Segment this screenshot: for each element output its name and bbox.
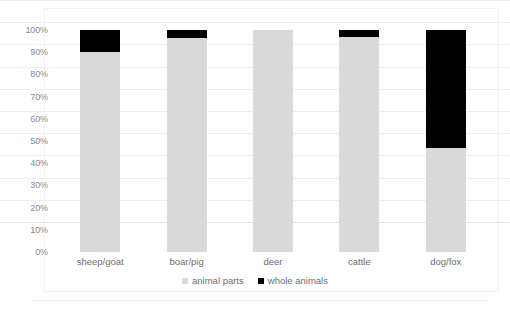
bar-sheep-goat (80, 30, 120, 252)
stacked-bar-chart: 100% 90% 80% 70% 60% 50% 40% 30% 20% 10%… (0, 0, 510, 309)
bar-segment-animal-parts (167, 38, 207, 252)
x-axis: sheep/goat boar/pig deer cattle dog/fox (57, 256, 489, 267)
y-axis-tick-label: 10% (8, 225, 48, 235)
bar-segment-animal-parts (426, 148, 466, 252)
legend-label: animal parts (192, 275, 244, 286)
y-axis-tick-label: 90% (8, 47, 48, 57)
bar-segment-whole-animals (80, 30, 120, 52)
bar-dog-fox (426, 30, 466, 252)
gridline-90 (0, 22, 510, 23)
gridline-100 (0, 0, 510, 1)
gray-square-icon (182, 278, 188, 284)
bar-segment-animal-parts (253, 30, 293, 252)
chart-legend: animal parts whole animals (0, 275, 510, 286)
y-axis-tick-label: 50% (8, 136, 48, 146)
x-axis-tick-label: dog/fox (410, 256, 482, 267)
y-axis-tick-label: 80% (8, 69, 48, 79)
y-axis-tick-label: 100% (8, 25, 48, 35)
x-axis-tick-label: cattle (323, 256, 395, 267)
bar-boar-pig (167, 30, 207, 252)
x-axis-tick-label: deer (237, 256, 309, 267)
x-axis-tick-label: boar/pig (151, 256, 223, 267)
y-axis-tick-label: 30% (8, 180, 48, 190)
y-axis-tick-label: 20% (8, 203, 48, 213)
x-axis-tick-label: sheep/goat (64, 256, 136, 267)
y-axis-tick-label: 40% (8, 158, 48, 168)
bottom-divider (30, 300, 490, 301)
bar-group (57, 30, 489, 252)
bar-segment-whole-animals (426, 30, 466, 148)
bar-segment-whole-animals (167, 30, 207, 38)
bar-segment-animal-parts (80, 52, 120, 252)
plot-area (57, 30, 489, 252)
bar-deer (253, 30, 293, 252)
legend-label: whole animals (268, 275, 328, 286)
bar-segment-animal-parts (339, 37, 379, 252)
y-axis-tick-label: 70% (8, 92, 48, 102)
y-axis-tick-label: 0% (8, 247, 48, 257)
y-axis-tick-label: 60% (8, 114, 48, 124)
black-square-icon (258, 278, 264, 284)
legend-item-animal-parts: animal parts (182, 275, 244, 286)
bar-cattle (339, 30, 379, 252)
bar-segment-whole-animals (339, 30, 379, 37)
legend-item-whole-animals: whole animals (258, 275, 328, 286)
